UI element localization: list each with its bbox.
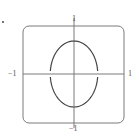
y-tick-bottom: −1 [69, 125, 78, 133]
x-tick-left: −1 [8, 70, 17, 78]
ellipse-plot [0, 0, 139, 137]
x-tick-right: 1 [128, 70, 132, 78]
panel-marker [2, 21, 4, 23]
y-tick-top: 1 [72, 15, 76, 23]
